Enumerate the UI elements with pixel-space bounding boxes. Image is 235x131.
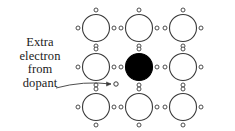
electron-bottom-icon bbox=[137, 83, 141, 87]
atom-core-circle bbox=[83, 54, 110, 81]
atoms-group bbox=[76, 8, 203, 127]
electron-left-icon bbox=[119, 105, 123, 109]
electron-left-icon bbox=[163, 105, 167, 109]
electron-top-icon bbox=[137, 87, 141, 91]
electron-right-icon bbox=[199, 65, 203, 69]
electron-bottom-icon bbox=[181, 123, 185, 127]
atom-core-circle bbox=[83, 15, 110, 42]
electron-top-icon bbox=[137, 8, 141, 12]
electron-right-icon bbox=[155, 105, 159, 109]
electron-top-icon bbox=[181, 87, 185, 91]
atom-core-circle bbox=[83, 94, 110, 121]
lattice-canvas bbox=[0, 0, 235, 131]
atom-core-circle bbox=[126, 15, 153, 42]
host-atom bbox=[163, 8, 203, 48]
electron-left-icon bbox=[76, 65, 80, 69]
atom-core-circle bbox=[170, 94, 197, 121]
electron-bottom-icon bbox=[94, 123, 98, 127]
electron-right-icon bbox=[155, 65, 159, 69]
host-atom bbox=[163, 47, 203, 87]
electron-bottom-icon bbox=[181, 83, 185, 87]
electron-bottom-icon bbox=[137, 123, 141, 127]
host-atom bbox=[76, 87, 116, 127]
electron-left-icon bbox=[163, 65, 167, 69]
host-atom bbox=[76, 8, 116, 48]
electron-right-icon bbox=[199, 26, 203, 30]
electron-top-icon bbox=[137, 47, 141, 51]
electron-left-icon bbox=[119, 26, 123, 30]
annotation-arrow-group bbox=[56, 82, 111, 88]
electron-right-icon bbox=[155, 26, 159, 30]
dopant-atom bbox=[119, 47, 159, 87]
electron-top-icon bbox=[181, 47, 185, 51]
electron-left-icon bbox=[119, 65, 123, 69]
electron-right-icon bbox=[112, 105, 116, 109]
electron-left-icon bbox=[76, 105, 80, 109]
atom-core-circle bbox=[170, 15, 197, 42]
electron-left-icon bbox=[76, 26, 80, 30]
electron-top-icon bbox=[94, 8, 98, 12]
electron-top-icon bbox=[181, 8, 185, 12]
host-atom bbox=[76, 47, 116, 87]
annotation-arrow-line bbox=[56, 83, 111, 88]
extra-electron-group bbox=[114, 82, 118, 86]
atom-core-circle bbox=[170, 54, 197, 81]
host-atom bbox=[119, 87, 159, 127]
host-atom bbox=[119, 8, 159, 48]
dopant-core-circle bbox=[126, 54, 153, 81]
semiconductor-doping-diagram: Extra electron from dopant bbox=[0, 0, 235, 131]
electron-right-icon bbox=[112, 26, 116, 30]
electron-right-icon bbox=[199, 105, 203, 109]
extra-electron-icon bbox=[114, 82, 118, 86]
electron-top-icon bbox=[94, 47, 98, 51]
electron-left-icon bbox=[163, 26, 167, 30]
atom-core-circle bbox=[126, 94, 153, 121]
electron-right-icon bbox=[112, 65, 116, 69]
annotation-arrowhead-icon bbox=[107, 82, 112, 86]
electron-bottom-icon bbox=[94, 83, 98, 87]
host-atom bbox=[163, 87, 203, 127]
electron-top-icon bbox=[94, 87, 98, 91]
